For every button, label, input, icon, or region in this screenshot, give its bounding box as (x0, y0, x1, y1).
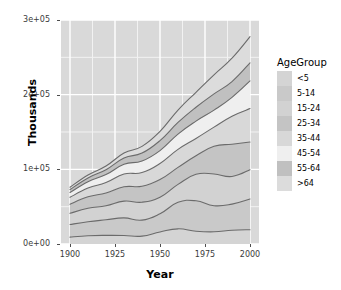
y-tick-mark (57, 169, 60, 170)
legend-title: AgeGroup (277, 57, 341, 68)
legend-item-label: 45-54 (297, 149, 320, 158)
legend-color-swatch (277, 116, 292, 131)
y-tick-label: 1e+05 (8, 164, 50, 173)
legend-item-list: <55-1415-2425-3435-4445-5455-64>64 (270, 71, 341, 191)
x-tick-mark (70, 244, 71, 247)
chart-figure: Thousands 0e+001e+052e+053e+05 190019251… (0, 0, 341, 290)
y-tick-mark (57, 244, 60, 245)
legend-item-label: 5-14 (297, 89, 315, 98)
x-tick-mark (115, 244, 116, 247)
y-tick-label: 3e+05 (8, 15, 50, 24)
y-tick-label: 2e+05 (8, 90, 50, 99)
x-tick-label: 1925 (95, 250, 135, 259)
legend-item[interactable]: 5-14 (270, 86, 341, 101)
legend-item[interactable]: 35-44 (270, 131, 341, 146)
x-tick-label: 1900 (50, 250, 90, 259)
plot-panel (61, 20, 259, 244)
legend-item-label: 35-44 (297, 134, 320, 143)
y-tick-mark (57, 20, 60, 21)
stacked-area-plot (61, 20, 259, 244)
legend-color-swatch (277, 86, 292, 101)
legend-item-label: >64 (297, 179, 314, 188)
x-tick-label: 1950 (140, 250, 180, 259)
legend-item[interactable]: <5 (270, 71, 341, 86)
legend-color-swatch (277, 176, 292, 191)
legend-item[interactable]: 25-34 (270, 116, 341, 131)
legend-item[interactable]: >64 (270, 176, 341, 191)
legend-item[interactable]: 15-24 (270, 101, 341, 116)
legend-color-swatch (277, 131, 292, 146)
y-tick-label: 0e+00 (8, 239, 50, 248)
legend-item-label: 15-24 (297, 104, 320, 113)
legend-item-label: <5 (297, 74, 309, 83)
y-tick-mark (57, 95, 60, 96)
legend-item[interactable]: 45-54 (270, 146, 341, 161)
x-axis-title: Year (62, 268, 258, 281)
legend-color-swatch (277, 146, 292, 161)
legend-color-swatch (277, 71, 292, 86)
x-tick-label: 2000 (230, 250, 270, 259)
legend-color-swatch (277, 161, 292, 176)
x-tick-label: 1975 (185, 250, 225, 259)
x-tick-mark (205, 244, 206, 247)
legend-item-label: 25-34 (297, 119, 320, 128)
legend-color-swatch (277, 101, 292, 116)
y-axis-title: Thousands (26, 53, 39, 173)
legend-item-label: 55-64 (297, 164, 320, 173)
x-tick-mark (250, 244, 251, 247)
chart-legend: AgeGroup <55-1415-2425-3435-4445-5455-64… (270, 57, 341, 191)
x-tick-mark (160, 244, 161, 247)
legend-item[interactable]: 55-64 (270, 161, 341, 176)
